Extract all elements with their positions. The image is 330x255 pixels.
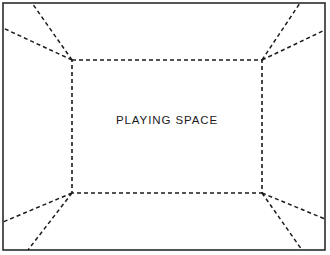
playing-space-boundary: [72, 60, 262, 193]
sightline-group: [3, 3, 325, 250]
playing-space-label: PLAYING SPACE: [72, 113, 262, 127]
sightline-top-left-to-left-edge: [3, 28, 72, 60]
playing-space-diagram: PLAYING SPACE: [0, 0, 330, 255]
diagram-canvas: [0, 0, 330, 255]
sightline-top-right-to-top-edge: [262, 3, 300, 60]
